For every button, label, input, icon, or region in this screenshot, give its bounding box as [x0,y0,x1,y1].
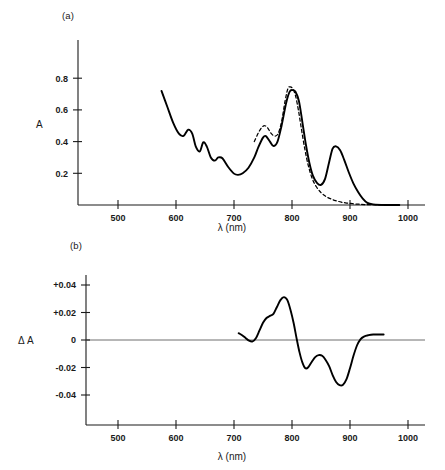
panel-a-plot: 0.20.40.60.8 5006007008009001000 [0,0,445,235]
panel-b-label: (b) [70,240,82,251]
panel-b-plot: +0.04+0.020-0.02-0.04 500600700800900100… [0,235,445,470]
svg-text:-0.02: -0.02 [55,363,76,373]
panel-b: +0.04+0.020-0.02-0.04 500600700800900100… [0,235,445,470]
svg-text:0.4: 0.4 [55,137,68,147]
svg-text:600: 600 [168,433,183,443]
panel-a-label: (a) [62,10,74,21]
svg-text:500: 500 [110,433,125,443]
absorption-curve-dashed [254,87,399,205]
svg-text:-0.04: -0.04 [55,390,76,400]
panel-a: 0.20.40.60.8 5006007008009001000 A λ (nm… [0,0,445,235]
svg-text:+0.02: +0.02 [53,308,76,318]
svg-text:700: 700 [226,213,241,223]
svg-text:0: 0 [71,335,76,345]
svg-text:+0.04: +0.04 [53,280,76,290]
svg-text:800: 800 [284,433,299,443]
svg-text:600: 600 [168,213,183,223]
svg-text:0.2: 0.2 [55,169,68,179]
svg-text:800: 800 [284,213,299,223]
svg-text:0.6: 0.6 [55,105,68,115]
svg-text:700: 700 [226,433,241,443]
panel-b-x-ticks: 5006007008009001000 [110,420,418,443]
panel-b-y-ticks: +0.04+0.020-0.02-0.04 [53,280,90,400]
svg-text:500: 500 [110,213,125,223]
svg-text:900: 900 [342,213,357,223]
svg-text:900: 900 [342,433,357,443]
svg-text:0.8: 0.8 [55,74,68,84]
absorption-curve-solid [162,90,400,205]
svg-text:1000: 1000 [398,433,418,443]
spectroscopy-figure: 0.20.40.60.8 5006007008009001000 A λ (nm… [0,0,445,470]
svg-text:1000: 1000 [398,213,418,223]
delta-absorption-curve [239,297,384,385]
